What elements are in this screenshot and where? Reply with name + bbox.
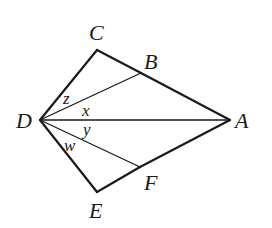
edge-af xyxy=(140,120,230,167)
vertex-label-d: D xyxy=(15,108,32,133)
vertex-label-b: B xyxy=(144,49,157,74)
angle-label-w: w xyxy=(64,136,76,155)
vertex-label-a: A xyxy=(233,108,249,133)
vertex-labels: C B D A F E xyxy=(15,20,249,223)
edge-cb xyxy=(97,50,141,73)
outline xyxy=(40,50,230,192)
vertex-label-f: F xyxy=(143,170,158,195)
segment-db xyxy=(40,73,141,120)
geometry-diagram: C B D A F E z x y w xyxy=(0,0,272,228)
edge-ba xyxy=(141,73,230,120)
angle-label-y: y xyxy=(81,120,91,139)
edge-fe xyxy=(97,167,140,192)
angle-label-x: x xyxy=(81,101,90,120)
angle-label-z: z xyxy=(62,89,70,108)
vertex-label-e: E xyxy=(88,198,103,223)
vertex-label-c: C xyxy=(89,20,104,45)
